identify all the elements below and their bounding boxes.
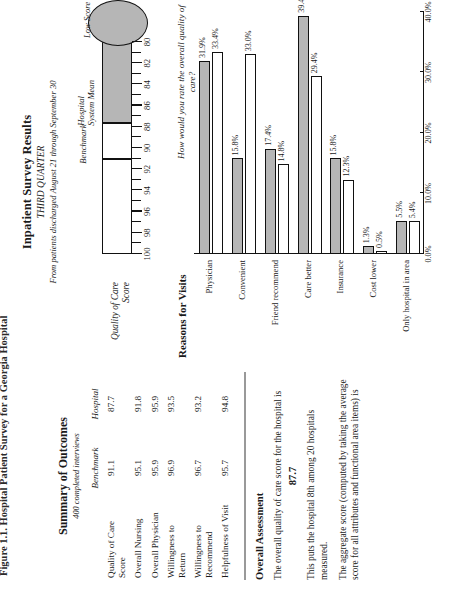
chart-category-group: Physician31.9%33.4% [198,12,223,254]
system-mean-annotation-line1: Hospital [76,96,86,126]
gauge-tick-label: 88 [142,123,152,132]
row-benchmark-value: 96.7 [190,436,217,500]
gauge-axis-label: Quality of Care Score [110,282,132,356]
row-hospital-value: 93.2 [190,372,217,436]
gauge-tick-label: 84 [142,80,152,89]
bar-value-label: 39.4% [297,0,306,13]
bar-value-label: 15.8% [329,135,338,156]
bar-hospital [363,246,374,254]
chart-category-label: Only hospital in area [401,260,411,356]
row-label: Quality of Care Score [103,500,130,580]
bar-hospital [396,221,407,254]
bar-hospital [330,158,341,254]
x-tick-mark [420,193,424,194]
assessment-paragraph-3: The aggregate score (computed by taking … [337,372,362,580]
summary-of-outcomes-panel: Summary of Outcomes 400 completed interv… [56,372,362,580]
bar-value-label: 0.5% [375,231,384,248]
survey-subtitle: THIRD QUARTER [36,6,46,358]
bar-benchmark [245,54,256,254]
table-row: Overall Nursing 95.1 91.8 [130,372,147,580]
table-header-row: Benchmark Hospital [90,372,103,580]
reasons-for-visits-chart: Reasons for Visits Physician31.9%33.4%Co… [176,6,448,358]
assessment-score: 87.7 [287,372,298,580]
row-hospital-value: 95.9 [147,372,164,436]
x-axis-tick-labels: 0.0%10.0%20.0%30.0%40.0% [424,12,438,254]
bar-benchmark [212,52,223,254]
gauge-tick-marks [132,42,142,254]
thermometer-tube [102,42,132,254]
section-divider [244,372,246,580]
assessment-paragraph-2: This puts the hospital 8th among 20 hosp… [305,372,330,580]
x-tick-mark [420,132,424,133]
row-label: Willingness to Recommend [190,500,217,580]
bar-value-label: 17.4% [264,125,273,146]
bar-value-label: 15.8% [231,135,240,156]
system-mean-annotation-line2: System Mean [86,80,96,126]
chart-category-group: Cost lower1.3%0.5% [362,12,387,254]
chart-plot-area: Physician31.9%33.4%Convenient15.8%33.0%F… [194,12,424,254]
gauge-tick-label: 90 [142,144,152,153]
x-tick-mark [420,72,424,73]
chart-category-group: Insurance15.8%12.3% [329,12,354,254]
bar-hospital [298,16,309,254]
bar-value-label: 14.8% [277,141,286,162]
gauge-tick-label: 86 [142,101,152,110]
low-score-annotation: Low Score [82,2,92,38]
bar-benchmark [376,251,387,254]
bar-benchmark [278,164,289,254]
bar-hospital [232,158,243,254]
chart-category-group: Care better39.4%29.4% [297,12,322,254]
benchmark-marker [102,158,132,159]
row-benchmark-value: 95.7 [217,436,234,500]
row-benchmark-value: 95.9 [147,436,164,500]
x-tick-label: 0.0% [424,245,433,262]
chart-category-label: Convenient [237,260,247,356]
survey-title: Inpatient Survey Results [20,6,35,358]
chart-category-label: Care better [303,260,313,356]
row-hospital-value: 94.8 [217,372,234,436]
x-tick-label: 40.0% [424,1,433,22]
chart-category-label: Physician [204,260,214,356]
gauge-tick-label: 94 [142,186,152,195]
chart-category-label: Friend recommend [270,260,280,356]
benchmark-annotation: Benchmark [78,125,88,164]
row-benchmark-value: 96.9 [163,436,190,500]
bar-value-label: 31.9% [198,37,207,58]
summary-title: Summary of Outcomes [56,372,71,580]
row-label: Overall Physician [147,500,164,580]
bar-benchmark [343,180,354,254]
gauge-tick-label: 98 [142,229,152,238]
bar-value-label: 29.4% [310,52,319,73]
row-label: Willingness to Return [163,500,190,580]
chart-category-label: Cost lower [368,260,378,356]
chart-category-group: Friend recommend17.4%14.8% [264,12,289,254]
survey-report-page: Figure 1.1. Hospital Patient Survey for … [0,0,463,594]
table-row: Willingness to Return 96.9 93.5 [163,372,190,580]
x-tick-mark [420,253,424,254]
bar-value-label: 1.3% [362,226,371,243]
row-label: Overall Nursing [130,500,147,580]
system-mean-marker [102,122,132,123]
table-row: Quality of Care Score 91.1 87.7 [103,372,130,580]
gauge-tick-label: 82 [142,59,152,68]
bar-benchmark [311,76,322,254]
gauge-tick-label: 96 [142,207,152,216]
x-tick-label: 30.0% [424,62,433,83]
bar-value-label: 5.5% [395,201,404,218]
x-tick-label: 20.0% [424,122,433,143]
chart-title: Reasons for Visits [176,274,188,358]
x-tick-label: 10.0% [424,183,433,204]
thermometer-bulb [88,0,148,46]
x-tick-mark [420,11,424,12]
survey-date-range: From patients discharged August 21 throu… [48,6,58,358]
row-benchmark-value: 95.1 [130,436,147,500]
table-row: Helpfulness of Visit 95.7 94.8 [217,372,234,580]
assessment-title: Overall Assessment [254,372,265,580]
thermometer-fill [103,41,131,123]
assessment-paragraph-1: The overall quality of care score for th… [272,372,284,580]
column-header-blank [90,500,103,580]
gauge-tick-label: 80 [142,38,152,47]
bar-value-label: 33.0% [244,31,253,52]
bar-value-label: 12.3% [342,156,351,177]
row-label: Helpfulness of Visit [217,500,234,580]
